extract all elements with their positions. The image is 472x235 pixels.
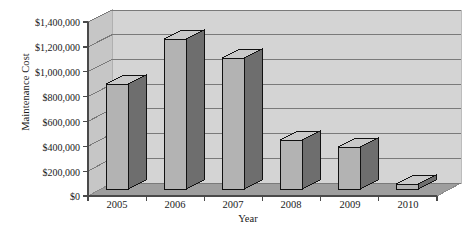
bar-chart: Maintenance Cost $1,400,000 $1,200,000 $… xyxy=(0,0,472,235)
x-tick-label: 2010 xyxy=(378,199,438,210)
x-tick-label: 2006 xyxy=(145,199,205,210)
x-axis-tick-labels: 2005 2006 2007 2008 2009 2010 xyxy=(0,0,472,235)
x-tick-label: 2008 xyxy=(261,199,321,210)
x-axis-title: Year xyxy=(0,213,472,224)
x-axis-title-text: Year xyxy=(238,213,258,224)
x-tick-label: 2007 xyxy=(203,199,263,210)
x-tick-label: 2005 xyxy=(87,199,147,210)
x-tick-label: 2009 xyxy=(320,199,380,210)
